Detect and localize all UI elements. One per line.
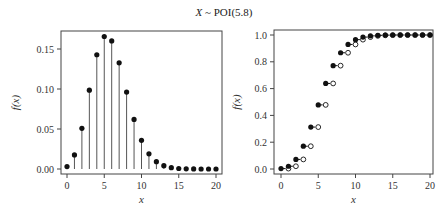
x-tick-label: 10 [137, 180, 147, 191]
x-tick-label: 0 [279, 180, 284, 191]
data-point [323, 81, 328, 86]
data-point [79, 126, 84, 131]
y-tick-label: 0.15 [37, 44, 55, 55]
y-tick-label: 0.4 [255, 110, 268, 121]
data-point [191, 166, 196, 171]
data-point [139, 138, 144, 143]
data-point [184, 166, 189, 171]
y-axis-label: f(x) [230, 94, 243, 110]
cdf-plot: 0.00.20.40.60.81.005101520xf(x) [230, 30, 435, 206]
open-point [338, 63, 343, 68]
data-point [94, 52, 99, 57]
data-point [427, 32, 432, 37]
x-tick-label: 20 [211, 180, 221, 191]
x-tick-label: 10 [351, 180, 361, 191]
data-point [64, 164, 69, 169]
open-point [316, 125, 321, 130]
open-point [331, 81, 336, 86]
data-point [413, 32, 418, 37]
data-point [331, 63, 336, 68]
data-point [109, 38, 114, 43]
data-point [390, 32, 395, 37]
data-point [102, 34, 107, 39]
chart-canvas: 0.000.050.100.1505101520xf(x) 0.00.20.40… [0, 0, 448, 214]
x-tick-label: 5 [102, 180, 107, 191]
y-tick-label: 0.05 [37, 124, 55, 135]
data-point [316, 102, 321, 107]
y-tick-label: 0.8 [255, 56, 268, 67]
data-point [368, 33, 373, 38]
x-tick-label: 0 [65, 180, 70, 191]
pmf-plot: 0.000.050.100.1505101520xf(x) [9, 31, 222, 205]
x-tick-label: 15 [388, 180, 398, 191]
data-point [206, 166, 211, 171]
open-point [301, 157, 306, 162]
open-point [294, 164, 299, 169]
data-point [301, 144, 306, 149]
data-point [405, 32, 410, 37]
data-point [383, 32, 388, 37]
data-point [131, 117, 136, 122]
data-point [72, 152, 77, 157]
data-point [213, 166, 218, 171]
data-point [353, 37, 358, 42]
y-tick-label: 0.2 [255, 137, 268, 148]
x-axis-label: x [138, 193, 144, 205]
open-point [323, 102, 328, 107]
y-tick-label: 0.6 [255, 83, 268, 94]
data-point [293, 157, 298, 162]
data-point [124, 89, 129, 94]
open-point [346, 50, 351, 55]
data-point [176, 166, 181, 171]
y-tick-label: 0.10 [37, 84, 55, 95]
x-tick-label: 15 [174, 180, 184, 191]
y-tick-label: 1.0 [255, 30, 268, 41]
data-point [161, 163, 166, 168]
data-point [278, 166, 283, 171]
data-point [308, 124, 313, 129]
plot-frame [274, 30, 433, 174]
data-point [169, 165, 174, 170]
open-point [353, 42, 358, 47]
data-point [345, 42, 350, 47]
data-point [338, 50, 343, 55]
y-axis-label: f(x) [9, 95, 22, 111]
x-axis-label: x [350, 193, 356, 205]
data-point [117, 60, 122, 65]
data-point [154, 159, 159, 164]
data-point [420, 32, 425, 37]
data-point [146, 151, 151, 156]
data-point [199, 166, 204, 171]
y-tick-label: 0.00 [37, 164, 55, 175]
x-tick-label: 20 [425, 180, 435, 191]
data-point [360, 35, 365, 40]
x-tick-label: 5 [316, 180, 321, 191]
y-tick-label: 0.0 [255, 164, 268, 175]
data-point [286, 164, 291, 169]
data-point [398, 32, 403, 37]
data-point [375, 33, 380, 38]
open-point [308, 144, 313, 149]
data-point [87, 88, 92, 93]
